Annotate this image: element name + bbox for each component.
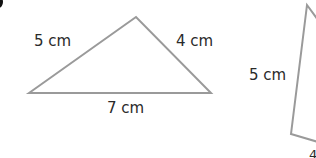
triangle-1-base-label: 7 cm	[107, 101, 144, 116]
triangle-1-left-side-label: 5 cm	[34, 34, 71, 49]
triangle-2-shape	[291, 5, 316, 142]
triangle-1-right-side-label: 4 cm	[176, 34, 213, 49]
triangle-2-left-side-label: 5 cm	[249, 68, 286, 83]
triangle-1-shape	[29, 17, 211, 93]
triangle-2-bottom-partial-label: 4	[309, 148, 316, 158]
diagram-canvas: 5 cm 4 cm 7 cm 5 cm 4	[0, 0, 316, 158]
